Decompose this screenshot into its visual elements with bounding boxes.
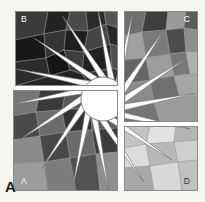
figure-caption-label: A — [5, 179, 16, 194]
mosaic-tile — [150, 162, 182, 191]
mosaic-tile — [13, 136, 44, 164]
figure-root: BCAD A — [0, 0, 205, 202]
gutter-vertical-lower — [118, 122, 124, 191]
gutter-horizontal-left — [13, 86, 118, 90]
mosaic-tile — [142, 11, 168, 32]
panel-label-a: A — [21, 176, 27, 186]
panel-label-b: B — [21, 14, 27, 24]
mosaic-tile — [184, 28, 198, 52]
mosaic-tile — [124, 166, 154, 191]
composite-mosaic-figure: BCAD — [0, 0, 205, 202]
mosaic-tile — [66, 11, 88, 31]
gutter-vertical-upper — [118, 11, 124, 122]
gutter-horizontal-right — [124, 122, 198, 126]
mosaic-tile — [174, 140, 198, 162]
panel-label-c: C — [184, 14, 190, 24]
panel-label-d: D — [184, 176, 190, 186]
mosaic-tile — [146, 126, 176, 144]
